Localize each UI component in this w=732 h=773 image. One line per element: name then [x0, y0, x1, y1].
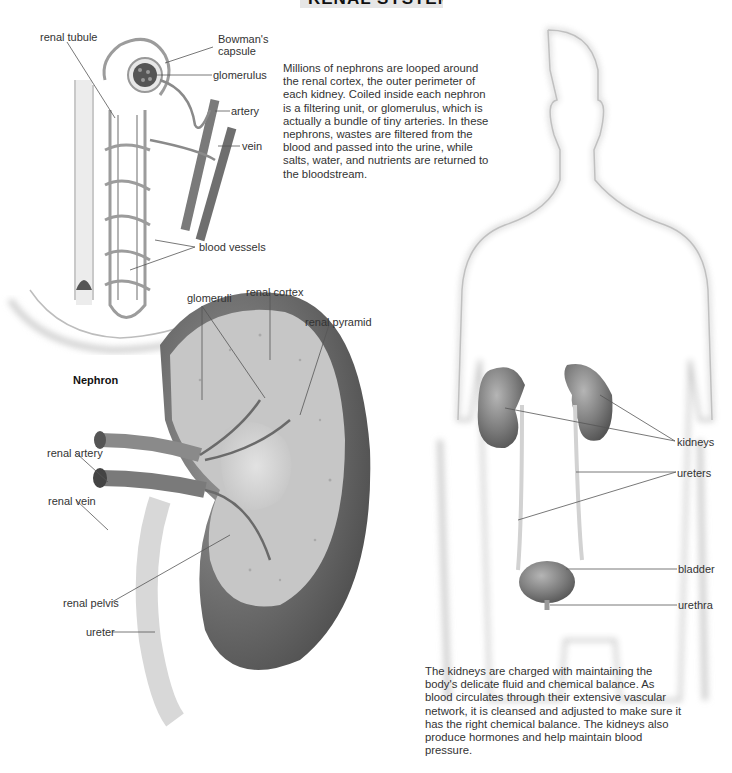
label-renal-artery: renal artery — [47, 447, 103, 459]
label-bowmans-capsule-line1: Bowman's — [218, 33, 268, 45]
label-urethra: urethra — [678, 599, 713, 611]
label-glomeruli: glomeruli — [187, 292, 232, 304]
label-blood-vessels: blood vessels — [199, 241, 266, 253]
kidney-function-paragraph: The kidneys are charged with maintaining… — [425, 665, 685, 757]
nephron-caption: Nephron — [73, 374, 118, 386]
label-renal-pyramid: renal pyramid — [305, 316, 372, 328]
label-bowmans-capsule-line2: capsule — [218, 45, 256, 57]
label-ureter: ureter — [86, 626, 115, 638]
label-glomerulus: glomerulus — [213, 69, 267, 81]
label-kidneys: kidneys — [677, 436, 714, 448]
label-renal-cortex: renal cortex — [246, 286, 303, 298]
nephron-paragraph: Millions of nephrons are looped around t… — [283, 62, 493, 181]
label-artery: artery — [231, 105, 259, 117]
kidney-section-illustration — [93, 292, 370, 720]
label-renal-tubule: renal tubule — [40, 31, 98, 43]
label-vein: vein — [242, 140, 262, 152]
label-renal-vein: renal vein — [48, 495, 96, 507]
label-bladder: bladder — [678, 563, 715, 575]
label-renal-pelvis: renal pelvis — [63, 597, 119, 609]
label-ureters: ureters — [677, 467, 711, 479]
